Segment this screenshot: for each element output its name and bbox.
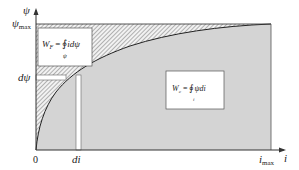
energy-coenergy-diagram: WF=∮idψ ψ Wc=∮ψdi i ψ ψmax dψ 0 di imax … xyxy=(0,0,299,170)
dpsi-label: dψ xyxy=(18,71,31,83)
dpsi-strip xyxy=(36,75,66,80)
origin-label: 0 xyxy=(33,154,38,165)
di-label: di xyxy=(72,153,81,165)
x-axis-label: i xyxy=(284,152,287,164)
y-axis-label: ψ xyxy=(23,4,30,16)
di-strip xyxy=(76,75,81,150)
psi-max-label: ψmax xyxy=(12,17,31,31)
coenergy-formula: Wc=∮ψdi xyxy=(172,83,206,94)
diagram-canvas: WF=∮idψ ψ Wc=∮ψdi i ψ ψmax dψ 0 di imax … xyxy=(0,0,299,170)
i-max-label: imax xyxy=(259,153,275,167)
field-energy-limit: ψ xyxy=(63,53,67,59)
y-axis-arrow-icon xyxy=(34,8,39,15)
